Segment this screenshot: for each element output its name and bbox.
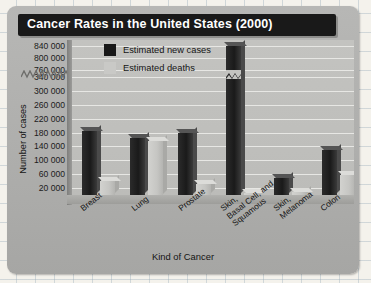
- y-tick-label: 180 000: [34, 128, 65, 138]
- legend-label-deaths: Estimated deaths: [123, 63, 195, 73]
- chart-title-bar: Cancer Rates in the United States (2000): [18, 14, 336, 36]
- y-axis-tick-labels: 840 000800 000760 000340 000300 000260 0…: [7, 6, 65, 206]
- bar-top: [320, 146, 343, 150]
- bar-new-cases: [226, 46, 241, 195]
- bar-new-cases: [178, 133, 193, 196]
- chart-legend: Estimated new cases Estimated deaths: [104, 42, 211, 78]
- y-tick-label: 840 000: [34, 41, 65, 51]
- gridline: [72, 105, 354, 106]
- y-tick-label: 60 000: [39, 169, 65, 179]
- bar-top: [194, 180, 217, 184]
- bar-face: [130, 138, 145, 195]
- bar-new-cases: [322, 150, 337, 195]
- chart-panel: Cancer Rates in the United States (2000)…: [7, 6, 359, 274]
- y-tick-label: 100 000: [34, 155, 65, 165]
- gridline: [72, 160, 354, 161]
- gridline: [72, 133, 354, 134]
- y-axis-break-icon: [21, 70, 69, 79]
- bar-face: [148, 141, 163, 196]
- bar-new-cases: [82, 131, 97, 195]
- legend-swatch-deaths: [104, 62, 116, 74]
- legend-item-estimated-new-cases: Estimated new cases: [104, 42, 211, 57]
- bar-top: [272, 174, 295, 178]
- y-tick-label: 20 000: [39, 183, 65, 193]
- bar-face: [322, 150, 337, 195]
- bar-top: [98, 177, 121, 181]
- bar-top: [176, 129, 199, 133]
- gridline: [72, 119, 354, 120]
- bar-top: [224, 42, 247, 46]
- bar-top: [146, 137, 169, 141]
- y-tick-label: 140 000: [34, 141, 65, 151]
- bar-side: [241, 40, 245, 193]
- legend-swatch-new-cases: [104, 44, 116, 56]
- y-tick-label: 300 000: [34, 86, 65, 96]
- bar-face: [178, 133, 193, 196]
- legend-item-estimated-deaths: Estimated deaths: [104, 60, 211, 75]
- bar-side: [163, 135, 167, 194]
- bar-deaths: [148, 141, 163, 196]
- x-axis-title: Kind of Cancer: [7, 251, 359, 262]
- bar-deaths: [100, 181, 115, 195]
- bar-face: [340, 175, 354, 195]
- bar-break-icon: [226, 65, 241, 74]
- bar-face: [82, 131, 97, 195]
- bar-deaths: [340, 175, 354, 195]
- y-tick-label: 260 000: [34, 100, 65, 110]
- gridline: [72, 91, 354, 92]
- bar-top: [80, 127, 103, 131]
- y-axis-title: Number of cases: [18, 95, 28, 183]
- bar-new-cases: [130, 138, 145, 195]
- y-tick-label: 800 000: [34, 53, 65, 63]
- y-tick-label: 220 000: [34, 114, 65, 124]
- legend-label-new-cases: Estimated new cases: [123, 45, 211, 55]
- gridline: [72, 146, 354, 147]
- bar-face: [100, 181, 115, 195]
- gridline: [72, 174, 354, 175]
